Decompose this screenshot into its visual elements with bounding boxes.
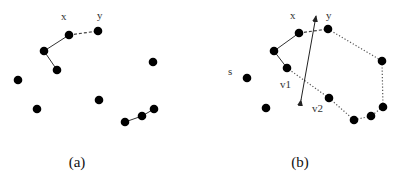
panel-b: xysv1v2(b) (228, 9, 387, 171)
node-n8 (138, 112, 147, 121)
node-n10 (378, 57, 387, 66)
node-label: y (326, 9, 332, 21)
panel-caption: (b) (291, 154, 309, 171)
node-n7 (350, 116, 359, 125)
node-n6 (149, 58, 158, 67)
node-x (65, 31, 74, 40)
node-n7 (121, 118, 130, 127)
node-n1 (270, 47, 279, 56)
node-n2 (53, 66, 62, 75)
node-n9 (150, 105, 159, 114)
panel-caption: (a) (69, 154, 86, 171)
node-n4 (33, 105, 42, 114)
node-label: y (97, 9, 103, 21)
node-label: v1 (280, 78, 291, 90)
edge-solid (274, 33, 299, 51)
node-n1 (40, 47, 49, 56)
node-label: s (228, 65, 232, 77)
graph-figure: xy(a) xysv1v2(b) (0, 0, 403, 182)
node-n3 (14, 76, 23, 85)
node-n9 (379, 103, 388, 112)
edge-dotted (329, 98, 354, 120)
node-label: x (290, 9, 296, 21)
node-y (94, 27, 103, 36)
edge-dotted (287, 68, 329, 98)
node-v2 (325, 94, 334, 103)
edge-dotted (382, 61, 383, 107)
node-n4 (262, 104, 271, 113)
node-v1 (283, 64, 292, 73)
edge-solid (44, 35, 69, 51)
double-arrow-icon (301, 16, 316, 100)
node-x (295, 29, 304, 38)
node-n5 (95, 96, 104, 105)
node-label: x (61, 10, 67, 22)
edge-dashed (69, 31, 98, 35)
node-n8 (367, 112, 376, 121)
edge-dotted (328, 29, 382, 61)
panel-a: xy(a) (14, 9, 159, 171)
node-s (243, 74, 252, 83)
node-label: v2 (312, 102, 323, 114)
node-y (324, 25, 333, 34)
